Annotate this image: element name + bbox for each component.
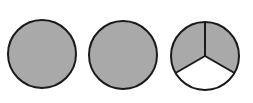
fraction-diagram [0,0,253,103]
whole-circle-2 [89,21,157,89]
whole-circle-1 [8,20,76,88]
thirds-circle [171,22,239,90]
